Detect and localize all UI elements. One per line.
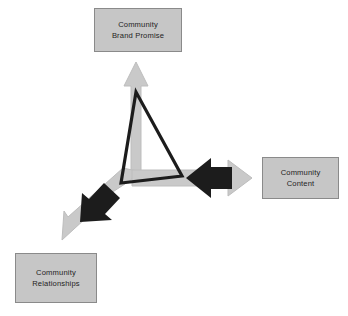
black-arrowhead-left — [186, 158, 232, 198]
arrow-up-shape — [124, 62, 148, 178]
node-community-content-label: Community Content — [281, 167, 321, 189]
black-arrowhead-left-shape — [186, 158, 232, 198]
node-community-brand-promise-label: Community Brand Promise — [112, 19, 164, 41]
node-community-relationships-label: Community Relationships — [32, 267, 80, 289]
node-community-relationships[interactable]: Community Relationships — [15, 253, 97, 303]
diagram-canvas: Community Brand Promise Community Conten… — [0, 0, 348, 316]
node-community-content[interactable]: Community Content — [262, 157, 339, 199]
arrow-up — [124, 62, 148, 178]
node-community-brand-promise[interactable]: Community Brand Promise — [94, 8, 182, 52]
